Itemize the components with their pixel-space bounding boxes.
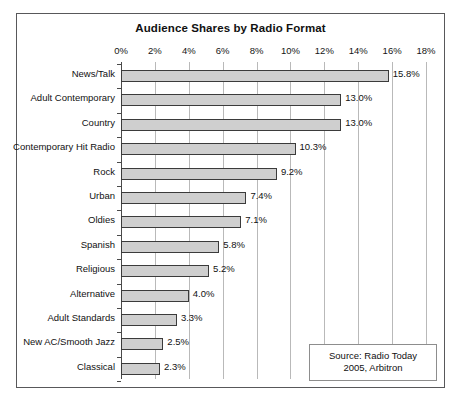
x-tick-label: 0% [114, 45, 128, 56]
plot-area: 15.8%13.0%13.0%10.3%9.2%7.4%7.1%5.8%5.2%… [121, 62, 426, 379]
figure-caption [18, 396, 448, 408]
bar-value-label: 2.3% [164, 361, 186, 372]
y-category-label: Religious [76, 263, 115, 274]
y-category-label: Adult Standards [47, 312, 115, 323]
x-tick-label: 18% [416, 45, 435, 56]
bar-value-label: 7.4% [250, 190, 272, 201]
bar-row: 13.0% [121, 88, 426, 112]
bar [121, 94, 341, 106]
y-axis-category-labels: News/TalkAdult ContemporaryCountryContem… [17, 62, 121, 379]
bar-row: 7.1% [121, 210, 426, 234]
bar-row: 5.8% [121, 235, 426, 259]
y-category-label: Classical [77, 361, 115, 372]
x-tick-label: 16% [383, 45, 402, 56]
y-category-label: Contemporary Hit Radio [13, 141, 115, 152]
y-category-label: Urban [89, 190, 115, 201]
bar-value-label: 15.8% [393, 68, 420, 79]
bar-row: 9.2% [121, 162, 426, 186]
y-category-label: New AC/Smooth Jazz [23, 336, 115, 347]
x-tick-label: 6% [216, 45, 230, 56]
x-tick-label: 2% [148, 45, 162, 56]
x-tick-label: 10% [281, 45, 300, 56]
bar [121, 338, 163, 350]
bar [121, 192, 246, 204]
y-category-label: Oldies [88, 214, 115, 225]
bar-value-label: 5.2% [213, 263, 235, 274]
chart-title: Audience Shares by Radio Format [17, 22, 444, 34]
y-axis-tick [117, 381, 121, 382]
bar-value-label: 3.3% [181, 312, 203, 323]
source-line-2: 2005, Arbitron [314, 362, 432, 374]
bar-value-label: 13.0% [345, 117, 372, 128]
bar-value-label: 10.3% [300, 141, 327, 152]
bar [121, 119, 341, 131]
y-category-label: Country [82, 117, 115, 128]
bar [121, 216, 241, 228]
gridline-18 [426, 62, 427, 379]
x-tick-label: 12% [315, 45, 334, 56]
bar-row: 13.0% [121, 113, 426, 137]
bar-value-label: 7.1% [245, 214, 267, 225]
bar [121, 265, 209, 277]
x-tick-label: 4% [182, 45, 196, 56]
bar [121, 241, 219, 253]
chart-figure-frame: Audience Shares by Radio Format 0%2%4%6%… [16, 13, 445, 388]
bar-value-label: 4.0% [193, 288, 215, 299]
source-annotation-box: Source: Radio Today 2005, Arbitron [309, 344, 437, 381]
bar-row: 15.8% [121, 64, 426, 88]
bar [121, 290, 189, 302]
bar-value-label: 5.8% [223, 239, 245, 250]
bar-row: 5.2% [121, 259, 426, 283]
bar [121, 314, 177, 326]
bar-value-label: 2.5% [167, 336, 189, 347]
x-tick-label: 14% [349, 45, 368, 56]
bar-value-label: 9.2% [281, 166, 303, 177]
bar-value-label: 13.0% [345, 92, 372, 103]
y-category-label: Adult Contemporary [31, 92, 115, 103]
y-category-label: News/Talk [72, 68, 115, 79]
bar [121, 143, 296, 155]
bar [121, 168, 277, 180]
bar-row: 7.4% [121, 186, 426, 210]
x-axis-tick-labels: 0%2%4%6%8%10%12%14%16%18% [121, 45, 426, 59]
y-category-label: Alternative [70, 288, 115, 299]
bar [121, 363, 160, 375]
x-tick-label: 8% [250, 45, 264, 56]
bar-row: 10.3% [121, 137, 426, 161]
bar-row: 3.3% [121, 308, 426, 332]
bar [121, 70, 389, 82]
bar-row: 4.0% [121, 284, 426, 308]
source-line-1: Source: Radio Today [314, 350, 432, 362]
y-category-label: Rock [93, 166, 115, 177]
y-category-label: Spanish [81, 239, 115, 250]
